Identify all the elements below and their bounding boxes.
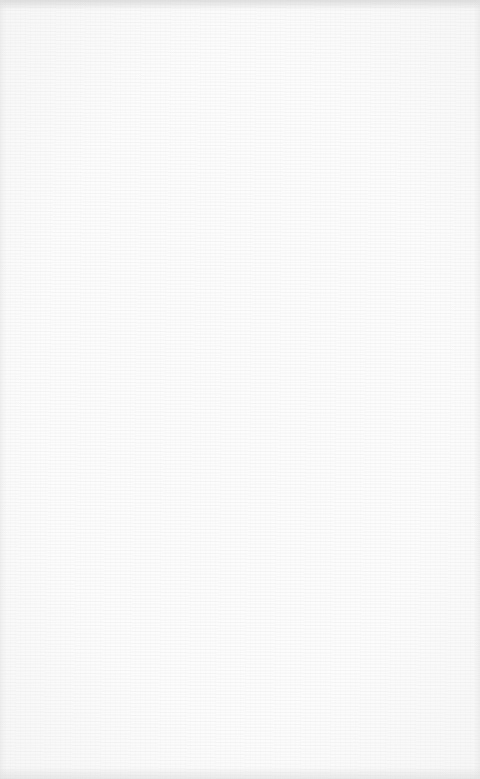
vignette-overlay: [0, 0, 480, 779]
top-edge-shadow: [0, 0, 480, 10]
left-edge-shadow: [0, 0, 6, 779]
right-edge-shadow: [474, 0, 480, 779]
bottom-edge-shadow: [0, 767, 480, 779]
blank-textured-surface: [0, 0, 480, 779]
